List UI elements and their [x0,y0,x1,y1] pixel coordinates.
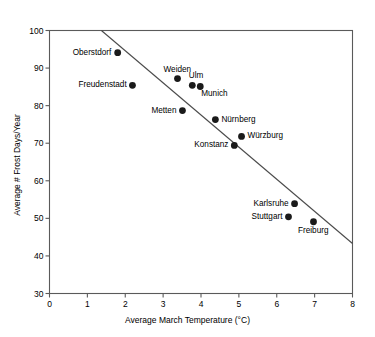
data-point-label: Munich [201,90,227,98]
x-tick-label: 8 [343,299,363,309]
data-point-label: Freudenstadt [78,81,126,89]
x-tick-label: 6 [267,299,287,309]
data-point-label: Karlsruhe [254,200,289,208]
y-tick-label: 30 [18,289,44,299]
data-point [285,213,292,220]
regression-line [101,31,352,244]
y-axis-title: Average # Frost Days/Year [12,85,22,245]
x-tick-label: 5 [229,299,249,309]
plot-frame [50,31,353,294]
data-point [129,82,136,89]
x-tick-label: 7 [305,299,325,309]
data-point [174,75,181,82]
data-point-label: Konstanz [194,141,228,149]
x-tick-label: 2 [115,299,135,309]
data-point-label: Metten [151,107,176,115]
y-tick-label: 90 [18,63,44,73]
data-point-label: Stuttgart [251,213,282,221]
scatter-chart: 01234567830405060708090100 OberstdorfFre… [0,0,375,337]
data-point-label: Ulm [189,72,204,80]
x-tick-label: 3 [153,299,173,309]
data-point [310,218,317,225]
data-point [179,107,186,114]
data-point [238,133,245,140]
data-point [231,142,238,149]
data-point-label: Würzburg [248,132,284,140]
data-point-label: Oberstdorf [73,49,112,57]
y-tick-label: 100 [18,26,44,36]
x-tick-label: 1 [77,299,97,309]
data-point-label: Nürnberg [221,116,255,124]
data-point [291,200,298,207]
data-point-label: Weiden [164,66,192,74]
y-tick-label: 40 [18,251,44,261]
data-point [212,116,219,123]
data-point-label: Freiburg [298,227,329,235]
data-point [189,82,196,89]
x-tick-label: 4 [191,299,211,309]
x-axis-title: Average March Temperature (°C) [0,315,375,325]
plot-canvas [0,0,375,337]
data-point [114,49,121,56]
x-tick-label: 0 [40,299,60,309]
